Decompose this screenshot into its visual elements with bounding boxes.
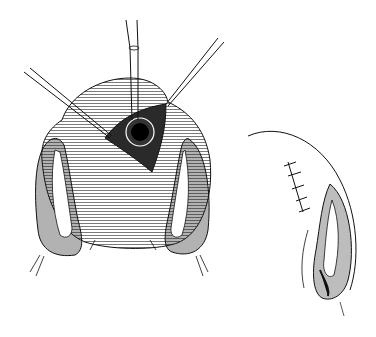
illustration-panel-right [240, 120, 376, 337]
sutured-uterus-illustration [240, 120, 376, 337]
suture-line [284, 162, 310, 212]
adnexa [302, 184, 352, 316]
forceps-right-icon [166, 38, 224, 106]
illustration-panel-left [0, 0, 240, 300]
uterus-incision-illustration [0, 0, 240, 300]
